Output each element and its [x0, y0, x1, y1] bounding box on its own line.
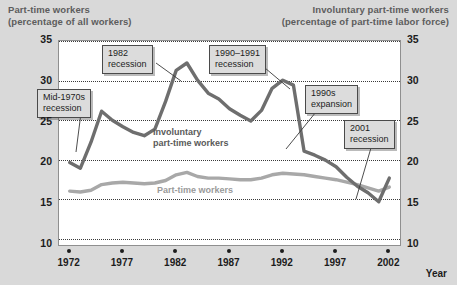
involuntary-series-label-line2: part-time workers [153, 138, 229, 149]
y-tick-right-15: 15 [407, 196, 429, 208]
callout-1990-1991-recession-line1: 1990–1991 [215, 48, 260, 59]
callout-1982-recession-line1: 1982 [108, 48, 147, 59]
x-tick-dot-2002 [386, 249, 390, 253]
y-tick-left-25: 25 [30, 115, 52, 127]
x-tick-label-1977: 1977 [111, 257, 133, 268]
callout-1982-recession: 1982 recession [102, 45, 153, 74]
y-tick-right-25: 25 [407, 115, 429, 127]
involuntary-series-label: Involuntary part-time workers [153, 127, 229, 149]
y-tick-left-35: 35 [30, 33, 52, 45]
callout-1990-1991-recession-line2: recession [215, 59, 260, 70]
x-tick-label-1987: 1987 [217, 257, 239, 268]
left-axis-title-line2: (percentage of all workers) [8, 16, 132, 28]
right-axis-title-line2: (percentage of part-time labor force) [282, 16, 449, 28]
chart-figure: Part-time workers (percentage of all wor… [0, 0, 457, 285]
y-tick-left-30: 30 [30, 74, 52, 86]
x-tick-label-1982: 1982 [164, 257, 186, 268]
callout-1982-recession-line2: recession [108, 59, 147, 70]
x-axis-title: Year [426, 268, 447, 279]
y-tick-left-10: 10 [30, 237, 52, 249]
left-axis-title-line1: Part-time workers [8, 4, 132, 16]
parttime-series-label: Part-time workers [157, 185, 233, 196]
callout-2001-recession-line1: 2001 [350, 123, 389, 134]
x-tick-label-2002: 2002 [377, 257, 399, 268]
x-tick-label-1997: 1997 [324, 257, 346, 268]
callout-1990-1991-recession: 1990–1991 recession [209, 45, 266, 74]
callout-1990s-expansion-line2: expansion [311, 99, 352, 110]
left-axis-title: Part-time workers (percentage of all wor… [8, 4, 132, 27]
callout-2001-recession-line2: recession [350, 134, 389, 145]
x-tick-dot-1972 [67, 249, 71, 253]
x-tick-dot-1982 [173, 249, 177, 253]
x-tick-label-1992: 1992 [271, 257, 293, 268]
involuntary-series-label-line1: Involuntary [153, 127, 229, 138]
callout-mid-1970s-recession-line2: recession [43, 103, 85, 114]
y-tick-right-20: 20 [407, 155, 429, 167]
x-tick-dot-1992 [280, 249, 284, 253]
callout-2001-recession: 2001 recession [344, 120, 395, 149]
callout-1990s-expansion: 1990s expansion [305, 85, 358, 114]
y-tick-left-15: 15 [30, 196, 52, 208]
plot-area: Involuntary part-time workers Part-time … [58, 40, 401, 246]
x-tick-dot-1977 [120, 249, 124, 253]
y-tick-right-35: 35 [407, 33, 429, 45]
y-tick-right-10: 10 [407, 237, 429, 249]
y-tick-left-20: 20 [30, 155, 52, 167]
x-tick-dot-1997 [333, 249, 337, 253]
right-axis-title-line1: Involuntary part-time workers [282, 4, 449, 16]
callout-mid-1970s-recession-line1: Mid-1970s [43, 92, 85, 103]
x-tick-label-1972: 1972 [58, 257, 80, 268]
callout-1990s-expansion-line1: 1990s [311, 88, 352, 99]
y-tick-right-30: 30 [407, 74, 429, 86]
x-tick-dot-1987 [227, 249, 231, 253]
right-axis-title: Involuntary part-time workers (percentag… [282, 4, 449, 27]
